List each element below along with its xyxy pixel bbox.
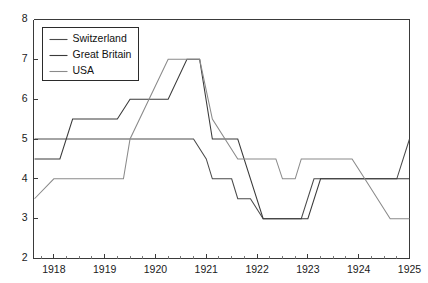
x-tick-label: 1921 xyxy=(195,263,219,275)
x-tick-label: 1919 xyxy=(93,263,117,275)
chart-legend: SwitzerlandGreat BritainUSA xyxy=(43,28,139,81)
x-tick-label: 1923 xyxy=(296,263,320,275)
chart-canvas: 2345678 19181919192019211922192319241925… xyxy=(0,0,428,283)
line-chart: 2345678 19181919192019211922192319241925… xyxy=(0,0,428,283)
x-tick-label: 1920 xyxy=(144,263,168,275)
y-tick-label: 8 xyxy=(22,12,28,24)
x-tick-label: 1918 xyxy=(42,263,66,275)
y-tick-label: 2 xyxy=(22,251,28,263)
y-tick-label: 6 xyxy=(22,92,28,104)
x-tick-label: 1925 xyxy=(398,263,422,275)
legend-label-switzerland: Switzerland xyxy=(73,32,127,44)
y-tick-label: 3 xyxy=(22,211,28,223)
y-tick-label: 5 xyxy=(22,132,28,144)
y-tick-label: 4 xyxy=(22,172,28,184)
legend-label-great-britain: Great Britain xyxy=(73,48,132,60)
x-tick-label: 1922 xyxy=(245,263,269,275)
x-tick-label: 1924 xyxy=(347,263,371,275)
data-series xyxy=(35,59,410,218)
legend-label-usa: USA xyxy=(73,64,95,76)
x-axis-tick-labels: 19181919192019211922192319241925 xyxy=(42,263,421,275)
y-axis-tick-labels: 2345678 xyxy=(22,12,28,263)
y-tick-label: 7 xyxy=(22,52,28,64)
